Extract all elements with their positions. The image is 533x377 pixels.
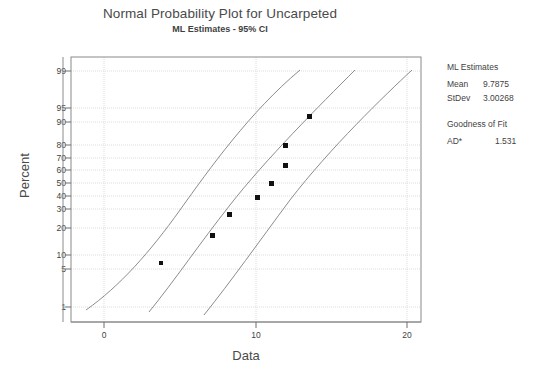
data-point	[227, 212, 232, 217]
stdev-value: 3.00268	[483, 93, 514, 103]
ml-estimates-heading: ML Estimates	[447, 62, 533, 72]
x-axis-ticks	[71, 322, 421, 328]
normal-probability-plot: Normal Probability Plot for Uncarpeted M…	[0, 0, 533, 377]
plot-frame	[71, 57, 421, 322]
data-point	[269, 181, 274, 186]
ml-fit-line	[149, 70, 355, 312]
ad-row: AD* 1.531	[447, 136, 533, 150]
plot-canvas	[0, 0, 533, 377]
lower-ci-curve	[204, 70, 412, 315]
mean-row: Mean 9.7875	[447, 79, 533, 93]
y-axis-ticks	[63, 57, 71, 322]
legend-spacer	[447, 107, 533, 119]
upper-ci-curve	[86, 70, 300, 310]
grid-lines	[71, 57, 421, 322]
mean-value: 9.7875	[483, 79, 509, 89]
goodness-of-fit-heading: Goodness of Fit	[447, 119, 533, 129]
data-point	[255, 195, 260, 200]
data-point	[283, 143, 288, 148]
stdev-row: StDev 3.00268	[447, 93, 533, 107]
mean-label: Mean	[447, 79, 468, 89]
ad-value: 1.531	[495, 136, 516, 146]
stdev-label: StDev	[447, 93, 470, 103]
data-point	[159, 261, 163, 265]
data-point	[283, 163, 288, 168]
data-point	[307, 114, 312, 119]
ad-label: AD*	[447, 136, 462, 146]
statistics-legend: ML Estimates Mean 9.7875 StDev 3.00268 G…	[447, 62, 533, 150]
data-point	[210, 233, 215, 238]
